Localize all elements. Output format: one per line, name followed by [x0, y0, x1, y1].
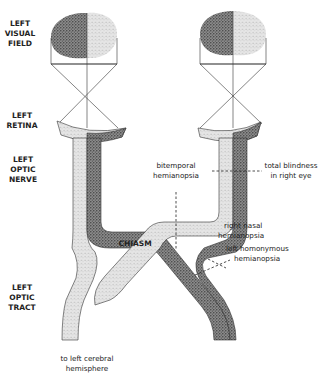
ray-line [58, 64, 117, 124]
svg-text:hemianopsia: hemianopsia [234, 254, 280, 263]
svg-text:FIELD: FIELD [8, 39, 32, 48]
annotation-bitemporal: bitemporal hemianopsia [153, 161, 199, 180]
svg-text:RETINA: RETINA [7, 121, 38, 130]
annotation-right-nasal: right nasal hemianopsia [218, 221, 264, 240]
label-bottom-destination: to left cerebral hemisphere [61, 354, 114, 373]
svg-text:hemisphere: hemisphere [66, 364, 109, 373]
svg-text:VISUAL: VISUAL [5, 29, 36, 38]
right-field-nasal-half [200, 11, 233, 55]
ray-line [200, 64, 262, 124]
label-left-optic-nerve: LEFT OPTIC NERVE [9, 155, 37, 184]
annotation-total-blindness: total blindness in right eye [265, 161, 318, 180]
label-left-retina: LEFT RETINA [7, 111, 38, 130]
annotation-left-homonymous: left homonymous hemianopsia [226, 244, 289, 263]
label-chiasm: CHIASM [118, 239, 151, 248]
svg-text:LEFT: LEFT [10, 19, 31, 28]
svg-text:to left cerebral: to left cerebral [61, 354, 114, 363]
svg-text:LEFT: LEFT [13, 155, 34, 164]
svg-text:TRACT: TRACT [8, 303, 36, 312]
svg-text:LEFT: LEFT [12, 283, 33, 292]
svg-text:in right eye: in right eye [270, 171, 312, 180]
left-field-nasal-half [87, 13, 117, 58]
left-visual-field [51, 13, 118, 128]
svg-text:OPTIC: OPTIC [9, 293, 35, 302]
label-left-visual-field: LEFT VISUAL FIELD [5, 19, 36, 48]
svg-text:bitemporal: bitemporal [156, 161, 195, 170]
svg-text:hemianopsia: hemianopsia [153, 171, 199, 180]
svg-text:left homonymous: left homonymous [226, 244, 289, 253]
svg-text:NERVE: NERVE [9, 175, 37, 184]
svg-text:hemianopsia: hemianopsia [218, 231, 264, 240]
visual-pathway-diagram: LEFT VISUAL FIELD LEFT RETINA LEFT OPTIC… [0, 0, 322, 379]
right-nasal-lesion-marker [208, 259, 226, 268]
svg-text:LEFT: LEFT [12, 111, 33, 120]
svg-text:OPTIC: OPTIC [10, 165, 36, 174]
left-field-temporal-half [51, 13, 87, 58]
right-field-temporal-half [233, 11, 266, 55]
svg-text:right nasal: right nasal [224, 221, 262, 230]
svg-text:total blindness: total blindness [265, 161, 318, 170]
right-visual-field [200, 11, 266, 128]
label-left-optic-tract: LEFT OPTIC TRACT [8, 283, 36, 312]
